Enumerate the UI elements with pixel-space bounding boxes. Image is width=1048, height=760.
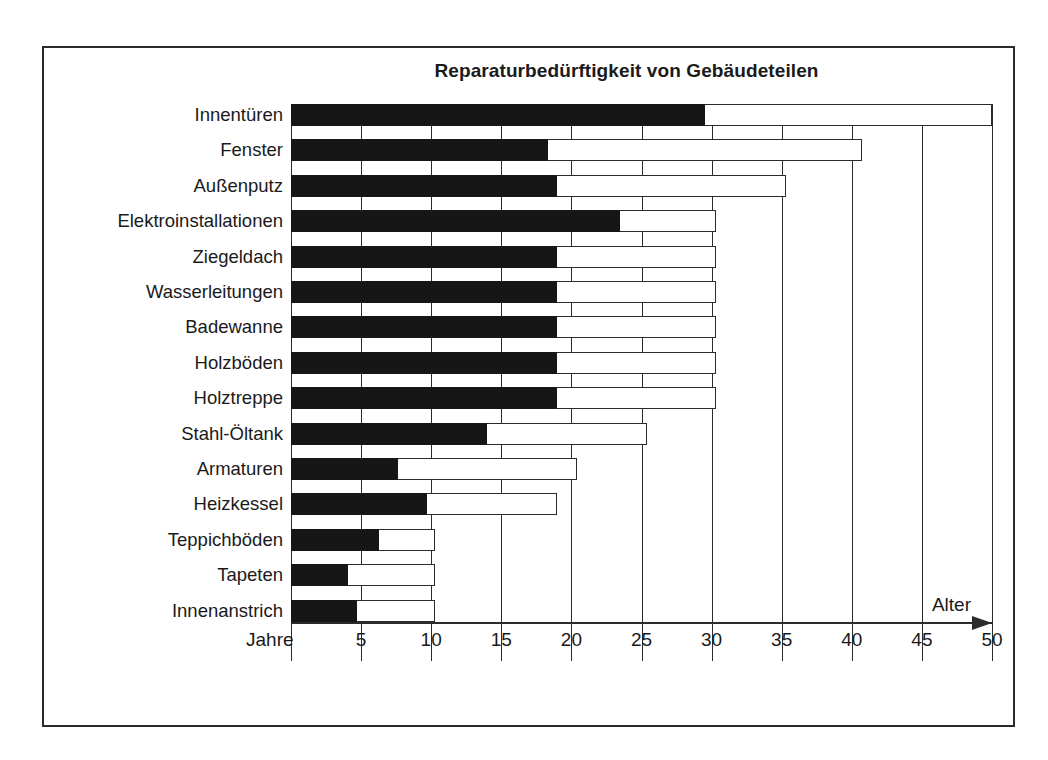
category-label: Heizkessel [194,493,283,515]
x-axis-line [291,622,992,624]
x-axis-arrow-icon [972,616,992,630]
x-tick-label-15: 15 [471,629,531,651]
bar-row[interactable] [291,493,992,515]
category-label: Wasserleitungen [146,281,283,303]
category-label: Innenanstrich [172,600,283,622]
category-label: Außenputz [194,175,283,197]
bar-segment-min[interactable] [291,139,548,161]
category-label: Holztreppe [194,387,283,409]
bar-segment-min[interactable] [291,352,557,374]
x-tick-label-40: 40 [822,629,882,651]
bar-row[interactable] [291,600,992,622]
bar-row[interactable] [291,564,992,586]
bar-segment-min[interactable] [291,246,557,268]
bar-row[interactable] [291,316,992,338]
bar-row[interactable] [291,246,992,268]
bar-segment-min[interactable] [291,316,557,338]
category-label: Innentüren [195,104,283,126]
bar-segment-min[interactable] [291,564,348,586]
bar-row[interactable] [291,458,992,480]
bar-segment-min[interactable] [291,600,357,622]
x-tick-label-20: 20 [541,629,601,651]
category-label: Holzböden [195,352,283,374]
x-axis-title: Alter [932,594,971,616]
bar-row[interactable] [291,352,992,374]
x-tick-label-25: 25 [612,629,672,651]
category-label: Elektroinstallationen [117,210,283,232]
bar-segment-min[interactable] [291,281,557,303]
x-tick-label-50: 50 [962,629,1022,651]
bar-segment-min[interactable] [291,458,398,480]
x-tick-label-30: 30 [682,629,742,651]
x-axis-unit-label: Jahre [246,629,294,651]
category-label: Badewanne [185,316,283,338]
category-label: Armaturen [197,458,283,480]
category-label: Tapeten [217,564,283,586]
category-label: Fenster [220,139,283,161]
bar-segment-min[interactable] [291,175,557,197]
bar-segment-min[interactable] [291,423,487,445]
bar-row[interactable] [291,529,992,551]
bar-segment-min[interactable] [291,493,427,515]
bar-row[interactable] [291,139,992,161]
x-tick-label-45: 45 [892,629,952,651]
bar-row[interactable] [291,210,992,232]
bar-row[interactable] [291,175,992,197]
category-label: Ziegeldach [192,246,283,268]
bar-segment-min[interactable] [291,104,705,126]
bar-segment-min[interactable] [291,210,620,232]
bar-row[interactable] [291,281,992,303]
bar-row[interactable] [291,104,992,126]
x-tick-label-35: 35 [752,629,812,651]
bar-row[interactable] [291,387,992,409]
bar-segment-min[interactable] [291,529,379,551]
category-label: Teppichböden [168,529,283,551]
chart-title: Reparaturbedürftigkeit von Gebäudeteilen [44,60,1013,82]
gridline-50 [992,104,993,661]
figure-frame: Reparaturbedürftigkeit von Gebäudeteilen… [42,46,1015,727]
x-tick-label-10: 10 [401,629,461,651]
category-axis-labels: InnentürenFensterAußenputzElektroinstall… [62,104,287,661]
bar-segment-min[interactable] [291,387,557,409]
x-tick-label-5: 5 [331,629,391,651]
plot-area: 5101520253035404550JahreAlter [291,104,992,661]
category-label: Stahl-Öltank [181,423,283,445]
bar-row[interactable] [291,423,992,445]
